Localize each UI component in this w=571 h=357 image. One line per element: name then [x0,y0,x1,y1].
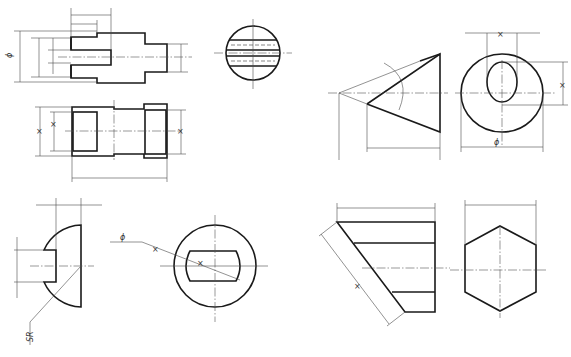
top-x-label: × [497,30,504,39]
mark-1-label: × [152,245,159,254]
diameter-label: ϕ [5,52,14,58]
hemisphere-view: SR [14,198,102,345]
dim-a-label: × [36,127,43,136]
stepped-shaft-view: ϕ [5,8,192,83]
slant-x-label: × [354,282,361,291]
right-x-label: × [559,81,566,90]
cone-end-view: × × ϕ [455,30,568,152]
dim-b-label: × [50,120,57,129]
sphere-radius-label: SR [26,331,35,342]
drawing-canvas: ϕ × × × [0,0,571,357]
cut-hex-prism-view: × [319,203,450,326]
dim-c-label: × [177,127,184,136]
stepped-bushing-view: × × × [35,100,186,182]
hexagon-view [450,200,548,318]
striped-circle-view [214,19,292,89]
truncated-cone-view [328,54,448,160]
diameter-label: ϕ [120,233,126,242]
diameter-label: ϕ [494,138,500,147]
mark-2-label: × [197,259,204,268]
slotted-disc-view: ϕ × × [110,215,268,322]
